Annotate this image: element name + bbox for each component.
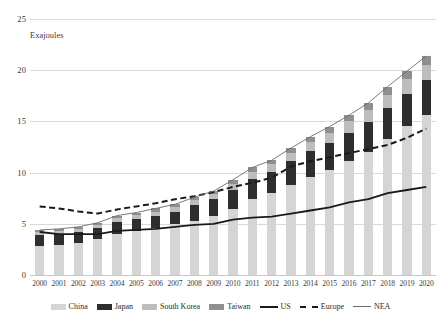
x-axis-tick-label: 2014	[301, 279, 320, 288]
gridline	[30, 173, 436, 174]
legend-item[interactable]: Europe	[300, 302, 344, 311]
x-axis-tick-labels: 2000200120022003200420052006200720082009…	[0, 279, 441, 293]
chart-container: Exajoules 0510152025 2000200120022003200…	[0, 0, 441, 322]
x-axis-tick-label: 2005	[127, 279, 146, 288]
legend-label: Taiwan	[227, 302, 250, 311]
legend-item[interactable]: US	[260, 302, 291, 311]
x-axis-tick-label: 2004	[107, 279, 126, 288]
legend-item[interactable]: Taiwan	[209, 302, 250, 311]
legend-label: South Korea	[160, 302, 200, 311]
legend-label: Japan	[115, 302, 133, 311]
legend-swatch-icon	[142, 304, 157, 310]
x-axis-tick-label: 2015	[320, 279, 339, 288]
legend-label: China	[69, 302, 88, 311]
gridline	[30, 70, 436, 71]
legend-label: Europe	[321, 302, 344, 311]
x-axis-tick-label: 2006	[146, 279, 165, 288]
y-axis-tick-label: 15	[2, 117, 26, 126]
y-axis-tick-label: 25	[2, 15, 26, 24]
x-axis-tick-label: 2017	[359, 279, 378, 288]
x-axis-tick-label: 2012	[262, 279, 281, 288]
x-axis-tick-label: 2001	[49, 279, 68, 288]
x-axis-tick-label: 2011	[243, 279, 262, 288]
legend-item[interactable]: NEA	[353, 302, 390, 311]
x-axis-tick-label: 2019	[397, 279, 416, 288]
legend-swatch-icon	[97, 304, 112, 310]
chart-legend: ChinaJapanSouth KoreaTaiwanUSEuropeNEA	[0, 302, 441, 311]
x-axis-tick-label: 2010	[223, 279, 242, 288]
x-axis-tick-label: 2018	[378, 279, 397, 288]
y-axis-tick-label: 5	[2, 220, 26, 229]
legend-item[interactable]: South Korea	[142, 302, 200, 311]
legend-swatch-icon	[209, 304, 224, 310]
legend-label: US	[281, 302, 291, 311]
x-axis-tick-label: 2002	[69, 279, 88, 288]
y-axis-tick-label: 20	[2, 66, 26, 75]
gridline	[30, 19, 436, 20]
x-axis-baseline	[30, 275, 436, 276]
x-axis-tick-label: 2007	[165, 279, 184, 288]
legend-swatch-icon	[51, 304, 66, 310]
x-axis-tick-label: 2020	[417, 279, 436, 288]
gridline	[30, 121, 436, 122]
gridline	[30, 224, 436, 225]
y-axis-tick-label: 10	[2, 169, 26, 178]
x-axis-tick-label: 2000	[30, 279, 49, 288]
legend-item[interactable]: Japan	[97, 302, 133, 311]
plot-area: 0510152025	[30, 19, 436, 275]
x-axis-tick-label: 2008	[185, 279, 204, 288]
x-axis-tick-label: 2016	[339, 279, 358, 288]
x-axis-tick-label: 2009	[204, 279, 223, 288]
legend-item[interactable]: China	[51, 302, 88, 311]
x-axis-tick-label: 2003	[88, 279, 107, 288]
x-axis-tick-label: 2013	[281, 279, 300, 288]
legend-label: NEA	[374, 302, 390, 311]
